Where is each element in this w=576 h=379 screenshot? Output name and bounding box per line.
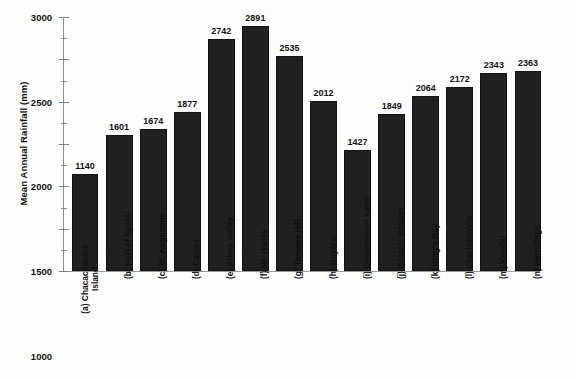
x-axis-category-label: (b) Port of Spain: [124, 214, 134, 279]
y-tick-major: 1500: [59, 144, 69, 145]
bar-value-label: 1140: [75, 161, 95, 171]
bar-group[interactable]: 2172(l) Charlotteville: [446, 17, 473, 271]
y-tick-minor: [61, 208, 67, 209]
bar-value-label: 2891: [245, 13, 265, 23]
plot-area: 050010001500200025003000 1140(a) Chacach…: [63, 17, 540, 271]
bar-group[interactable]: 1140(a) ChacachacareIsland: [72, 17, 99, 271]
x-axis-category-label: (c) St. Augustine: [158, 213, 168, 279]
y-tick-label: 2000: [31, 181, 52, 192]
x-axis-category-label: (f) Mt. Harris: [260, 230, 270, 279]
x-axis-category-label: (i) Government Farm: [362, 197, 372, 279]
y-tick-major: 0: [59, 271, 69, 272]
bar-group[interactable]: 1877(d) Caroni: [174, 17, 201, 271]
bar-value-label: 2535: [279, 43, 299, 53]
y-tick-minor: [61, 38, 67, 39]
y-tick-label: 3000: [31, 12, 52, 23]
y-tick-minor: [61, 250, 67, 251]
bar-value-label: 2064: [416, 83, 436, 93]
x-axis-category-label: (h) Mayaro: [328, 237, 338, 279]
x-axis-category-label: (n) Hermitage: [533, 225, 543, 279]
bar-value-label: 1877: [177, 99, 197, 109]
x-axis-category-label: (g) Tamana Hill: [294, 220, 304, 279]
y-tick-major: 2000: [59, 102, 69, 103]
x-axis-category-label: (e) Arima Valley: [226, 217, 236, 279]
y-tick-major: 500: [59, 229, 69, 230]
bar-group[interactable]: 2343(m) Kendal: [480, 17, 507, 271]
bar-value-label: 2343: [484, 60, 504, 70]
bar-value-label: 1427: [348, 137, 368, 147]
y-tick-minor: [61, 81, 67, 82]
x-axis-category-label: (m) Kendal: [499, 236, 509, 279]
bar-group[interactable]: 1674(c) St. Augustine: [140, 17, 167, 271]
y-tick-major: 1000: [59, 186, 69, 187]
bar-value-label: 2363: [518, 58, 538, 68]
y-tick-label: 1000: [31, 350, 52, 361]
bar-value-label: 1674: [143, 116, 163, 126]
bar-value-label: 2742: [211, 26, 231, 36]
bar-group[interactable]: 2363(n) Hermitage: [515, 17, 542, 271]
bar-group[interactable]: 1601(b) Port of Spain: [106, 17, 133, 271]
x-axis-category-label: (l) Charlotteville: [465, 216, 475, 279]
bar-value-label: 2172: [450, 74, 470, 84]
bar-group[interactable]: 2891(f) Mt. Harris: [242, 17, 269, 271]
x-axis-category-label: (d) Caroni: [192, 239, 202, 279]
x-axis-category-label: (k) King's Bay: [430, 223, 440, 279]
y-tick-minor: [61, 165, 67, 166]
y-tick-label: 1500: [31, 266, 52, 277]
rainfall-bar-chart: Mean Annual Rainfall (mm) 05001000150020…: [0, 0, 576, 379]
y-axis-title: Mean Annual Rainfall (mm): [18, 49, 29, 239]
bar-group[interactable]: 2064(k) King's Bay: [412, 17, 439, 271]
bar-group[interactable]: 2012(h) Mayaro: [310, 17, 337, 271]
bar-value-label: 1849: [382, 101, 402, 111]
y-tick-label: 2500: [31, 96, 52, 107]
y-tick-minor: [61, 123, 67, 124]
bar-group[interactable]: 2535(g) Tamana Hill: [276, 17, 303, 271]
x-axis-category-label: (j) Botanic Station: [396, 207, 406, 279]
bar-value-label: 1601: [109, 122, 129, 132]
bar-group[interactable]: 1427(i) Government Farm: [344, 17, 371, 271]
bar-group[interactable]: 2742(e) Arima Valley: [208, 17, 235, 271]
y-tick-major: 2500: [59, 59, 69, 60]
x-axis-category-label: (a) ChacachacareIsland: [81, 236, 100, 322]
bar-group[interactable]: 1849(j) Botanic Station: [378, 17, 405, 271]
y-tick-major: 3000: [59, 17, 69, 18]
bar-value-label: 2012: [314, 88, 334, 98]
